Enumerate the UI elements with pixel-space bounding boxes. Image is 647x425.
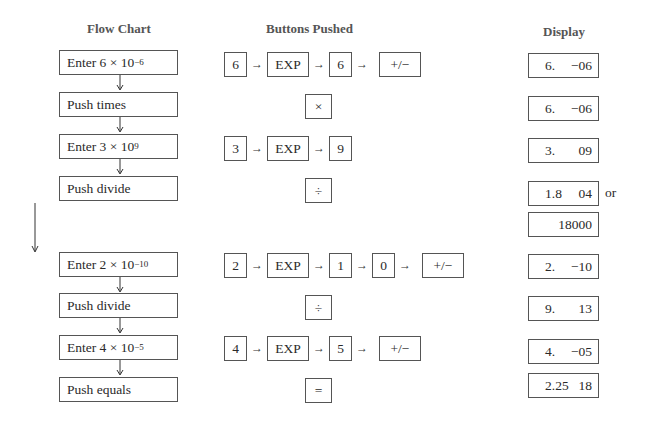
display-exponent: 04 xyxy=(579,186,593,202)
flow-step-exponent: −10 xyxy=(134,259,148,269)
key-5[interactable]: 5 xyxy=(329,336,352,361)
key-plus-minus[interactable]: +/− xyxy=(379,336,421,361)
down-arrow-icon xyxy=(116,318,124,334)
display-mantissa: 2. xyxy=(545,259,555,275)
key-equals[interactable]: = xyxy=(305,378,332,403)
or-label: or xyxy=(605,185,616,201)
right-arrow-icon: → xyxy=(309,57,329,72)
display-header: Display xyxy=(543,24,585,40)
flow-step-exponent: 9 xyxy=(134,141,139,151)
key-divide[interactable]: ÷ xyxy=(305,178,332,203)
key-6[interactable]: 6 xyxy=(224,52,247,77)
down-arrow-icon xyxy=(116,277,124,293)
key-exp[interactable]: EXP xyxy=(267,136,309,161)
display-step-8: 2.25 18 xyxy=(528,373,599,398)
display-mantissa: 9. xyxy=(545,301,555,317)
display-step-6: 9. 13 xyxy=(528,296,599,321)
button-sequence-step-3: 3 → EXP → 9 xyxy=(224,136,352,161)
buttons-pushed-header: Buttons Pushed xyxy=(266,21,353,37)
right-arrow-icon: → xyxy=(247,57,267,72)
display-mantissa: 2.25 xyxy=(545,378,569,394)
key-3[interactable]: 3 xyxy=(224,136,247,161)
down-arrow-icon xyxy=(116,117,124,133)
key-exp[interactable]: EXP xyxy=(267,336,309,361)
flow-step-push-equals: Push equals xyxy=(59,377,178,402)
flow-step-text: Push divide xyxy=(67,298,130,314)
right-arrow-icon: → xyxy=(247,341,267,356)
display-step-5: 2. −10 xyxy=(528,254,599,279)
display-step-1: 6. −06 xyxy=(528,53,599,78)
key-9[interactable]: 9 xyxy=(329,136,352,161)
display-step-4-alt: 18000 xyxy=(528,212,599,237)
key-6[interactable]: 6 xyxy=(329,52,352,77)
right-arrow-icon: → xyxy=(247,141,267,156)
right-arrow-icon: → xyxy=(352,258,372,273)
flow-step-enter-2e-10: Enter 2 × 10−10 xyxy=(59,252,178,277)
right-arrow-icon: → xyxy=(309,341,329,356)
flow-step-text: Push divide xyxy=(67,181,130,197)
key-4[interactable]: 4 xyxy=(224,336,247,361)
button-sequence-step-1: 6 → EXP → 6 → +/− xyxy=(224,52,421,77)
display-exponent: −05 xyxy=(571,344,592,360)
key-divide[interactable]: ÷ xyxy=(305,295,332,320)
display-mantissa: 6. xyxy=(545,58,555,74)
right-arrow-icon: → xyxy=(352,341,372,356)
right-arrow-icon: → xyxy=(309,141,329,156)
flow-step-push-divide-2: Push divide xyxy=(59,293,178,318)
display-step-7: 4. −05 xyxy=(528,339,599,364)
key-plus-minus[interactable]: +/− xyxy=(379,52,421,77)
key-times[interactable]: × xyxy=(305,94,332,119)
display-exponent: 18 xyxy=(579,378,593,394)
key-exp[interactable]: EXP xyxy=(267,253,309,278)
flow-step-enter-6e-6: Enter 6 × 10−6 xyxy=(59,50,178,75)
down-arrow-icon xyxy=(116,75,124,91)
key-0[interactable]: 0 xyxy=(372,253,395,278)
key-1[interactable]: 1 xyxy=(329,253,352,278)
display-exponent: 13 xyxy=(579,301,593,317)
display-mantissa: 6. xyxy=(545,101,555,117)
flow-step-push-times: Push times xyxy=(59,92,178,117)
down-arrow-icon xyxy=(116,159,124,175)
display-exponent: 09 xyxy=(579,143,593,159)
flow-step-text: Enter 2 × 10 xyxy=(67,257,134,273)
right-arrow-icon: → xyxy=(247,258,267,273)
display-value: 18000 xyxy=(558,217,592,233)
right-arrow-icon: → xyxy=(352,57,372,72)
display-step-4: 1.8 04 xyxy=(528,181,599,206)
flow-step-text: Push equals xyxy=(67,382,131,398)
display-step-3: 3. 09 xyxy=(528,138,599,163)
long-down-arrow-icon xyxy=(30,203,40,253)
key-2[interactable]: 2 xyxy=(224,253,247,278)
display-mantissa: 4. xyxy=(545,344,555,360)
flow-chart-header: Flow Chart xyxy=(87,21,151,37)
flow-step-text: Enter 3 × 10 xyxy=(67,139,134,155)
display-exponent: −06 xyxy=(571,101,592,117)
right-arrow-icon: → xyxy=(309,258,329,273)
flow-step-exponent: −6 xyxy=(134,57,144,67)
flow-step-enter-3e9: Enter 3 × 109 xyxy=(59,134,178,159)
display-exponent: −10 xyxy=(571,259,592,275)
flow-step-push-divide-1: Push divide xyxy=(59,176,178,201)
flow-step-exponent: −5 xyxy=(134,342,144,352)
key-plus-minus[interactable]: +/− xyxy=(422,253,464,278)
display-step-2: 6. −06 xyxy=(528,96,599,121)
down-arrow-icon xyxy=(116,360,124,376)
button-sequence-step-5: 2 → EXP → 1 → 0 → +/− xyxy=(224,253,464,278)
button-sequence-step-7: 4 → EXP → 5 → +/− xyxy=(224,336,421,361)
flow-step-text: Push times xyxy=(67,97,126,113)
display-mantissa: 3. xyxy=(545,143,555,159)
right-arrow-icon: → xyxy=(395,258,415,273)
display-mantissa: 1.8 xyxy=(545,186,562,202)
flow-step-text: Enter 4 × 10 xyxy=(67,340,134,356)
flow-step-enter-4e-5: Enter 4 × 10−5 xyxy=(59,335,178,360)
flow-step-text: Enter 6 × 10 xyxy=(67,55,134,71)
key-exp[interactable]: EXP xyxy=(267,52,309,77)
display-exponent: −06 xyxy=(571,58,592,74)
